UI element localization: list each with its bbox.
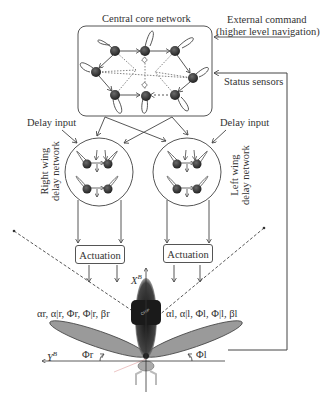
right-wing-label-line2: delay network bbox=[50, 141, 61, 201]
phi-r-label: Φr bbox=[82, 349, 93, 360]
right-wing-delay-network bbox=[65, 138, 133, 206]
actuation-left-box: Actuation bbox=[163, 244, 213, 263]
insect-body: CHIP bbox=[114, 278, 161, 385]
actuation-right-box: Actuation bbox=[75, 245, 125, 264]
external-command-sublabel: (higher level navigation) bbox=[216, 26, 320, 37]
central-core-label: Central core network bbox=[102, 13, 191, 24]
left-wing-label-line1: Left wing bbox=[229, 145, 240, 205]
left-wing-delay-network bbox=[153, 138, 221, 206]
delay-input-right-label: Delay input bbox=[220, 117, 269, 128]
x-axis-label: XB bbox=[131, 272, 142, 286]
left-wing-network-label: Left wing delay network bbox=[229, 145, 251, 205]
left-wing-label-line2: delay network bbox=[240, 145, 251, 205]
status-sensors-label: Status sensors bbox=[224, 76, 283, 87]
phi-l-label: Φl bbox=[196, 349, 207, 360]
y-axis-label: YB bbox=[47, 349, 57, 363]
external-command-label: External command bbox=[227, 14, 307, 25]
right-wing-label-line1: Right wing bbox=[39, 141, 50, 201]
central-core-network bbox=[78, 26, 212, 116]
delay-input-left-label: Delay input bbox=[27, 117, 76, 128]
right-wing-network-label: Right wing delay network bbox=[39, 141, 61, 201]
left-wing-params: αl, α|l, Φl, Φ|l, βl bbox=[166, 308, 238, 319]
right-wing-params: αr, α|r, Φr, Φ|r, βr bbox=[37, 308, 110, 319]
